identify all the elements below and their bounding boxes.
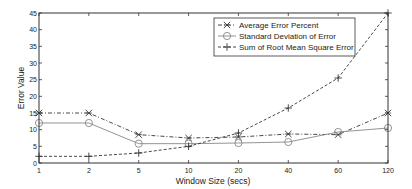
y-tick-label: 5 — [33, 143, 37, 150]
x-tick-label: 2 — [87, 167, 91, 174]
y-tick-label: 25 — [29, 76, 37, 83]
y-tick-label: 35 — [29, 43, 37, 50]
x-tick-label: 60 — [334, 167, 342, 174]
x-tick-label: 20 — [235, 167, 243, 174]
y-tick-label: 40 — [29, 26, 37, 33]
y-tick-label: 15 — [29, 110, 37, 117]
y-tick-label: 10 — [29, 126, 37, 133]
x-tick-label: 10 — [185, 167, 193, 174]
y-tick-label: 20 — [29, 93, 37, 100]
legend-item: Sum of Root Mean Square Error — [218, 43, 354, 52]
legend-label: Standard Deviation of Error — [239, 32, 336, 41]
legend-label: Sum of Root Mean Square Error — [239, 43, 354, 52]
legend: Average Error PercentStandard Deviation … — [214, 18, 355, 56]
y-axis-label: Error Value — [16, 67, 26, 110]
x-tick-label: 5 — [137, 167, 141, 174]
x-tick-label: 40 — [284, 167, 292, 174]
y-tick-label: 45 — [29, 10, 37, 17]
y-tick-label: 0 — [33, 160, 37, 167]
y-tick-label: 30 — [29, 60, 37, 67]
line-chart: 051015202530354045 12510204060120 Window… — [0, 0, 412, 189]
series-average-error-percent — [36, 110, 391, 141]
series-standard-deviation-of-error — [35, 119, 391, 147]
x-tick-label: 1 — [37, 167, 41, 174]
x-axis-label: Window Size (secs) — [176, 176, 251, 186]
x-tick-label: 120 — [382, 167, 394, 174]
legend-label: Average Error Percent — [239, 21, 319, 30]
